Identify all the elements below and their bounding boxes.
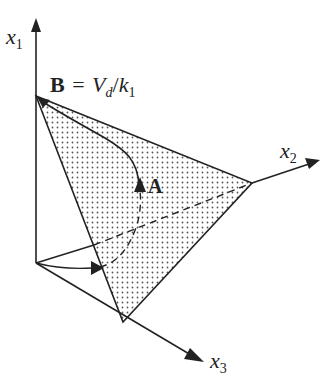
B-equation-label: B = Vd/k1 [50,72,135,100]
x3-label: x3 [209,348,227,376]
diagram-canvas: x1 x2 x3 B = Vd/k1 A [0,0,336,387]
simplex-diagram: x1 x2 x3 B = Vd/k1 A [0,0,336,387]
x1-arrow-icon [31,18,41,32]
x2-axis-visible-segment [36,245,94,263]
x1-label: x1 [5,24,23,52]
simplex-triangle [36,96,252,322]
x2-arrow-icon [305,158,320,169]
x2-label: x2 [279,138,297,166]
x2-axis-outer [252,163,312,183]
A-label: A [148,175,163,197]
x3-arrow-icon [184,348,204,362]
